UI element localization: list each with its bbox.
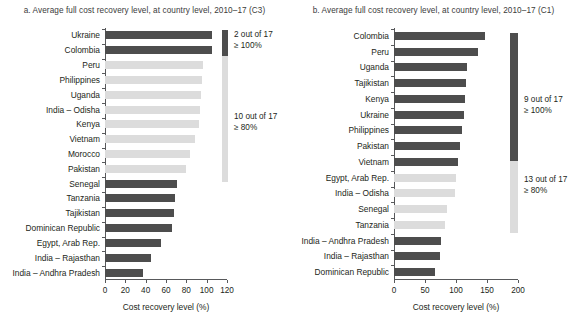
chart-panel-b: b. Average full cost recovery level, at … bbox=[289, 0, 578, 325]
bar bbox=[105, 150, 190, 158]
panel-b-x-axis-label: Cost recovery level (%) bbox=[413, 302, 500, 312]
bar bbox=[105, 209, 174, 217]
bar bbox=[105, 224, 172, 232]
bar bbox=[105, 135, 195, 143]
y-axis-tick bbox=[102, 207, 105, 208]
y-axis-tick bbox=[391, 265, 394, 266]
x-axis-tick-label: 0 bbox=[103, 286, 108, 295]
category-label: Philippines bbox=[59, 76, 100, 84]
x-axis-tick bbox=[425, 280, 426, 283]
y-axis-tick bbox=[102, 222, 105, 223]
category-label: India – Odisha bbox=[335, 189, 389, 197]
panel-a-plot-area: Cost recovery level (%) UkraineColombiaP… bbox=[105, 28, 227, 280]
bar bbox=[105, 194, 175, 202]
y-axis-tick bbox=[391, 139, 394, 140]
y-axis-tick bbox=[391, 187, 394, 188]
category-label: Tajikistan bbox=[355, 79, 389, 87]
bar bbox=[105, 46, 212, 54]
category-label: India – Odisha bbox=[46, 106, 100, 114]
y-axis-tick bbox=[102, 88, 105, 89]
x-axis-tick bbox=[456, 280, 457, 283]
bar bbox=[394, 126, 462, 134]
category-label: Egypt, Arab Rep. bbox=[37, 239, 100, 247]
panel-b-plot-area: Cost recovery level (%) ColombiaPeruUgan… bbox=[394, 28, 518, 280]
category-label: Peru bbox=[82, 61, 100, 69]
y-axis-tick bbox=[391, 202, 394, 203]
category-label: Uganda bbox=[360, 63, 389, 71]
bar bbox=[394, 174, 456, 182]
category-label: Colombia bbox=[354, 32, 389, 40]
bar bbox=[105, 120, 199, 128]
legend-annotation: 10 out of 17≥ 80% bbox=[234, 112, 277, 133]
y-axis-tick bbox=[391, 76, 394, 77]
x-axis-tick-label: 100 bbox=[449, 286, 463, 295]
category-label: Vietnam bbox=[358, 158, 389, 166]
x-axis-tick bbox=[166, 280, 167, 283]
y-axis-tick bbox=[102, 177, 105, 178]
x-axis-tick-label: 0 bbox=[392, 286, 397, 295]
y-axis-tick bbox=[102, 73, 105, 74]
y-axis-tick bbox=[102, 44, 105, 45]
category-label: Tanzania bbox=[66, 194, 100, 202]
bar bbox=[394, 205, 447, 213]
x-axis-tick-label: 150 bbox=[480, 286, 494, 295]
category-label: Tanzania bbox=[355, 221, 389, 229]
category-label: Dominican Republic bbox=[315, 268, 389, 276]
legend-segment-dark bbox=[510, 33, 518, 161]
category-label: Colombia bbox=[65, 46, 100, 54]
category-label: Vietnam bbox=[69, 135, 100, 143]
category-label: India – Rajasthan bbox=[35, 254, 100, 262]
bar bbox=[394, 268, 435, 276]
legend-segment-light bbox=[510, 161, 518, 233]
y-axis-tick bbox=[102, 266, 105, 267]
x-axis-tick bbox=[227, 280, 228, 283]
panel-a-x-axis-label: Cost recovery level (%) bbox=[123, 302, 210, 312]
bar bbox=[105, 269, 143, 277]
bar bbox=[394, 237, 441, 245]
y-axis-tick bbox=[391, 108, 394, 109]
panel-b-title: b. Average full cost recovery level, at … bbox=[289, 6, 578, 15]
x-axis-tick-label: 120 bbox=[220, 286, 234, 295]
bar bbox=[105, 106, 200, 114]
panel-a-title: a. Average full cost recovery level, at … bbox=[0, 6, 289, 15]
legend-annotation-count: 10 out of 17 bbox=[234, 112, 277, 123]
bar bbox=[394, 63, 467, 71]
legend-gradient-bar bbox=[510, 33, 518, 233]
bar bbox=[105, 180, 177, 188]
bar bbox=[105, 254, 151, 262]
x-axis-tick bbox=[518, 280, 519, 283]
y-axis-tick bbox=[391, 234, 394, 235]
category-label: Ukraine bbox=[360, 111, 389, 119]
y-axis-tick bbox=[391, 29, 394, 30]
category-label: Ukraine bbox=[71, 31, 100, 39]
legend-annotation-threshold: ≥ 80% bbox=[524, 186, 567, 197]
x-axis-tick bbox=[394, 280, 395, 283]
x-axis-tick-label: 100 bbox=[200, 286, 214, 295]
y-axis-tick bbox=[391, 45, 394, 46]
legend-annotation: 13 out of 17≥ 80% bbox=[524, 175, 567, 196]
bar bbox=[394, 142, 460, 150]
chart-panel-a: a. Average full cost recovery level, at … bbox=[0, 0, 289, 325]
category-label: Pakistan bbox=[357, 142, 389, 150]
legend-gradient-bar bbox=[222, 30, 228, 182]
x-axis-tick-label: 200 bbox=[511, 286, 525, 295]
x-axis-tick bbox=[207, 280, 208, 283]
x-axis-tick-label: 40 bbox=[141, 286, 150, 295]
x-axis-tick bbox=[125, 280, 126, 283]
bar bbox=[394, 158, 458, 166]
y-axis-tick bbox=[102, 59, 105, 60]
figure-container: a. Average full cost recovery level, at … bbox=[0, 0, 578, 325]
x-axis-tick-label: 50 bbox=[420, 286, 429, 295]
x-axis-tick-label: 80 bbox=[182, 286, 191, 295]
bar bbox=[394, 189, 455, 197]
y-axis-tick bbox=[391, 250, 394, 251]
y-axis-tick bbox=[102, 192, 105, 193]
category-label: Morocco bbox=[68, 150, 100, 158]
y-axis-tick bbox=[391, 218, 394, 219]
y-axis-tick bbox=[391, 124, 394, 125]
category-label: Senegal bbox=[69, 180, 100, 188]
bar bbox=[394, 252, 440, 260]
bar bbox=[394, 221, 445, 229]
legend-annotation-threshold: ≥ 80% bbox=[234, 123, 277, 134]
y-axis-tick bbox=[102, 237, 105, 238]
